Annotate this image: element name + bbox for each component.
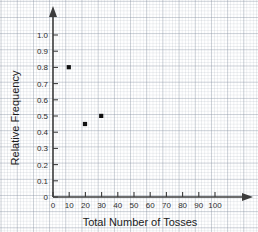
y-tick-label-0p3: 0.3 bbox=[37, 144, 49, 153]
x-tick-label-30: 30 bbox=[97, 201, 106, 210]
x-tick-label-50: 50 bbox=[130, 201, 139, 210]
y-axis-arrow-icon bbox=[49, 6, 57, 17]
y-axis-title: Relative Frequency bbox=[9, 70, 21, 165]
y-tick-label-0p1: 0.1 bbox=[37, 177, 49, 186]
data-point-group bbox=[67, 65, 104, 126]
scatter-plot-screenshot: 0 0.1 0.2 0.3 0.4 0.5 0.6 0.7 0.8 0.9 1.… bbox=[0, 0, 258, 232]
x-tick-label-80: 80 bbox=[178, 201, 187, 210]
y-tick-label-1p0: 1.0 bbox=[37, 31, 49, 40]
chart-canvas: 0 0.1 0.2 0.3 0.4 0.5 0.6 0.7 0.8 0.9 1.… bbox=[0, 0, 258, 232]
y-tick-label-0p9: 0.9 bbox=[37, 47, 49, 56]
y-tick-label-0: 0 bbox=[44, 193, 49, 202]
y-tick-label-0p4: 0.4 bbox=[37, 128, 49, 137]
y-tick-label-0p7: 0.7 bbox=[37, 80, 49, 89]
data-point[interactable] bbox=[67, 65, 71, 69]
y-tick-label-0p6: 0.6 bbox=[37, 96, 49, 105]
y-tick-label-0p8: 0.8 bbox=[37, 63, 49, 72]
x-axis-title: Total Number of Tosses bbox=[83, 216, 198, 228]
y-tick-label-0p5: 0.5 bbox=[37, 112, 49, 121]
y-tick-label-0p2: 0.2 bbox=[37, 161, 49, 170]
x-tick-label-10: 10 bbox=[65, 201, 74, 210]
x-tick-label-100: 100 bbox=[208, 201, 222, 210]
data-point[interactable] bbox=[99, 114, 103, 118]
x-tick-label-60: 60 bbox=[146, 201, 155, 210]
x-tick-label-70: 70 bbox=[162, 201, 171, 210]
x-tick-label-0: 0 bbox=[51, 201, 56, 210]
x-axis-arrow-icon bbox=[242, 193, 253, 201]
x-tick-label-20: 20 bbox=[81, 201, 90, 210]
data-point[interactable] bbox=[83, 122, 87, 126]
x-tick-label-90: 90 bbox=[194, 201, 203, 210]
x-tick-label-40: 40 bbox=[113, 201, 122, 210]
